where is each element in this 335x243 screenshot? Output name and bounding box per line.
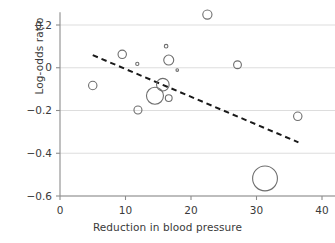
x-tick-label-4: 40 <box>315 204 328 216</box>
data-point-13 <box>294 112 302 120</box>
tick-labels-group: 0.20−0.2−0.4−0.6010203040 <box>27 19 329 216</box>
x-tick-label-1: 10 <box>119 204 132 216</box>
plot-canvas: 0.20−0.2−0.4−0.6010203040 <box>0 0 335 243</box>
data-point-8 <box>164 55 174 65</box>
data-point-1 <box>118 50 126 58</box>
data-point-7 <box>165 95 172 102</box>
data-point-4 <box>146 87 163 104</box>
data-point-9 <box>176 69 179 72</box>
data-point-0 <box>89 81 97 89</box>
data-points-group <box>89 10 302 191</box>
y-tick-label-1: 0 <box>45 61 52 73</box>
y-tick-label-4: −0.6 <box>27 190 53 202</box>
trend-line-group <box>93 55 299 142</box>
x-tick-label-3: 30 <box>250 204 263 216</box>
data-point-10 <box>203 10 212 19</box>
data-point-12 <box>253 166 278 191</box>
x-tick-label-2: 20 <box>184 204 197 216</box>
y-axis-title: Log-odds ratio <box>33 0 45 121</box>
y-tick-label-3: −0.4 <box>27 147 53 159</box>
gridlines-group <box>60 25 335 196</box>
data-point-6 <box>164 44 168 48</box>
data-point-2 <box>136 62 139 65</box>
x-tick-label-0: 0 <box>57 204 64 216</box>
regression-trend-line <box>93 55 299 142</box>
bubble-plot-figure: 0.20−0.2−0.4−0.6010203040 Log-odds ratio… <box>0 0 335 243</box>
x-axis-title: Reduction in blood pressure <box>0 221 335 233</box>
axes-group <box>56 12 335 200</box>
